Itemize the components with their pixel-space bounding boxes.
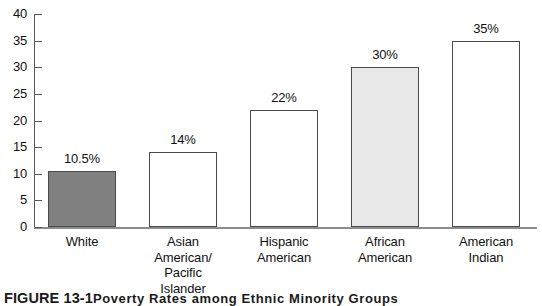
figure-caption-label: FIGURE 13-1 [4,291,93,306]
bar-value-label: 22% [234,91,334,105]
bar [351,67,419,227]
bar [452,41,520,227]
bar-value-label: 10.5% [32,152,132,166]
bar [149,152,217,227]
chart-plot-area: 0510152025303540 10.5%14%22%30%35% White… [0,0,542,240]
category-label: Asian American/ Pacific Islander [128,234,238,296]
figure-caption: FIGURE 13-1Poverty Rates among Ethnic Mi… [4,291,542,306]
category-label: White [27,234,137,250]
bar-value-label: 35% [436,22,536,36]
category-label: American Indian [431,234,541,265]
category-label: African American [330,234,440,265]
bar-value-label: 30% [335,48,435,62]
category-label: Hispanic American [229,234,339,265]
bar [48,171,116,227]
figure-caption-text: Poverty Rates among Ethnic Minority Grou… [93,291,398,306]
bar [250,110,318,227]
bar-value-label: 14% [133,133,233,147]
